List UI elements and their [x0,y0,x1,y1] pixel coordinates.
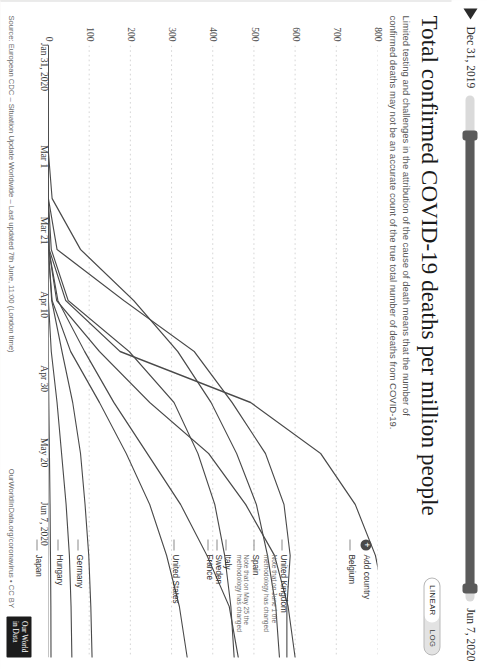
timeline-end-label: Jun 7, 2020 [464,608,476,661]
legend-label: Hungary [53,554,63,585]
legend-label: SpainNote that on May 25 the methodology… [234,554,259,657]
legend-dash-icon [77,539,78,550]
legend-label: United KingdomNote that on June 1 the me… [262,554,287,657]
legend-dash-icon [253,539,254,550]
plot-area: 0100200300400500600700800 +Add countryBe… [48,15,378,657]
y-tick-label: 800 [372,27,382,41]
y-tick-label: 200 [125,27,135,41]
x-tick-label: Apr 30 [38,365,48,392]
legend-dash-icon [281,539,282,550]
legend-dash-icon [57,539,58,550]
x-tick-label: Jan 31, 2020 [38,42,48,90]
legend-item[interactable]: United KingdomNote that on June 1 the me… [262,539,287,657]
legend-item[interactable]: France [203,539,213,657]
chart-footer: Source: European CDC – Situation Update … [6,15,31,657]
timeline-control[interactable]: Dec 31, 2019 Jun 7, 2020 [453,0,487,669]
legend-item[interactable]: SpainNote that on May 25 the methodology… [234,539,259,657]
chart-subtitle: Limited testing and challenges in the at… [385,15,411,445]
plus-circle-icon: + [360,539,371,550]
legend-label: Sweden [213,554,223,584]
y-tick-label: 400 [207,27,217,41]
legend-label: France [203,554,213,579]
scale-linear-button[interactable]: LINEAR [424,578,439,623]
legend-note: Note that on June 1 the methodology has … [262,554,277,657]
legend-label: Italy [222,554,232,569]
owid-logo-line2: in Data [10,621,18,653]
timeline-start-label: Dec 31, 2019 [464,26,476,88]
play-icon[interactable] [463,8,477,19]
photo-backdrop: Dec 31, 2019 Jun 7, 2020 Total confirmed… [0,0,487,669]
page-title: Total confirmed COVID-19 deaths per mill… [416,15,441,657]
legend-note: Note that on May 25 the methodology has … [234,554,249,657]
legend-label: Germany [74,554,84,588]
legend-dash-icon [207,539,208,550]
legend-item[interactable]: Italy [222,539,232,657]
x-tick-label: Jun 7, 2020 [38,501,48,545]
y-tick-label: 0 [43,36,53,41]
legend-item[interactable]: Belgium [345,539,355,657]
owid-url[interactable]: OurWorldInData.org/coronavirus • CC BY [6,468,15,607]
legend-item[interactable]: Sweden [213,539,223,657]
timeline-handle-start[interactable] [463,130,478,140]
x-axis: Jan 31, 2020Mar 1Mar 21Apr 10Apr 30May 2… [33,45,48,657]
footer-right: OurWorldInData.org/coronavirus • CC BY O… [6,468,31,657]
legend-dash-icon [349,539,350,550]
y-tick-label: 700 [331,27,341,41]
x-tick-label: Apr 10 [38,291,48,318]
legend-item[interactable]: Hungary [53,539,63,657]
series-line[interactable] [48,45,187,657]
scale-toggle[interactable]: LINEAR LOG [423,577,440,655]
timeline-handle-end[interactable] [463,583,478,593]
chart-card: Total confirmed COVID-19 deaths per mill… [0,0,451,669]
add-country-label: Add country [361,554,371,599]
source-note: Source: European CDC – Situation Update … [6,15,15,352]
legend-dash-icon [173,539,174,550]
legend-dash-icon [216,539,217,550]
y-axis: 0100200300400500600700800 [48,15,378,45]
y-tick-label: 600 [290,27,300,41]
legend-item[interactable]: Germany [74,539,84,657]
legend-item[interactable]: United States [169,539,179,657]
chart-header: Total confirmed COVID-19 deaths per mill… [385,15,441,657]
y-tick-label: 500 [249,27,259,41]
legend-dash-icon [225,539,226,550]
owid-logo-line1: Our World [18,621,26,653]
owid-logo[interactable]: Our World in Data [6,616,31,658]
x-tick-label: Mar 1 [38,145,48,168]
y-tick-label: 100 [84,27,94,41]
y-tick-label: 300 [166,27,176,41]
legend-label: Belgium [345,554,355,584]
add-country-button[interactable]: +Add country [360,539,371,599]
timeline-slider[interactable] [466,95,475,601]
x-tick-label: Mar 21 [38,216,48,244]
x-tick-label: May 20 [38,437,48,466]
owid-chart-figure: Dec 31, 2019 Jun 7, 2020 Total confirmed… [0,0,487,669]
timeline-range-fill [466,135,475,590]
rotated-figure: Dec 31, 2019 Jun 7, 2020 Total confirmed… [0,0,487,669]
legend-label: United States [169,554,179,603]
scale-log-button[interactable]: LOG [424,622,439,654]
